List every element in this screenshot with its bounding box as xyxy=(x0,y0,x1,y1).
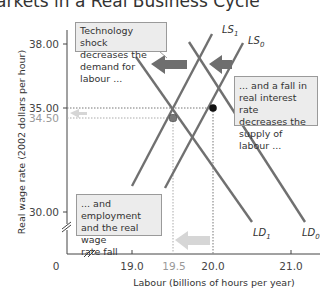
x-axis-label: Labour (billions of hours per year) xyxy=(133,277,295,288)
wage-shift-arrow-icon xyxy=(70,109,87,118)
x-tick-19: 19.0 xyxy=(120,260,143,272)
initial-equilibrium-point xyxy=(209,104,217,112)
note-line: rate fall xyxy=(81,246,157,258)
ld1-label: LD1 xyxy=(253,227,271,241)
note-line: and the real wage xyxy=(81,222,157,246)
tech-shock-note: Technology shock decreases the demand fo… xyxy=(75,22,167,52)
note-line: ... and employment xyxy=(81,198,157,222)
x-tick-19-5: 19.5 xyxy=(162,260,185,272)
y-tick-34-5: 34.50 xyxy=(29,112,59,124)
x-tick-21: 21.0 xyxy=(279,260,302,272)
employment-shift-arrow-icon xyxy=(175,231,210,250)
y-tick-38: 38.00 xyxy=(29,38,59,50)
note-line: supply of labour ... xyxy=(239,128,313,152)
note-line: Technology shock xyxy=(80,25,162,49)
x-tick-20: 20.0 xyxy=(201,260,224,272)
ld0-label: LD0 xyxy=(302,227,320,241)
ls1-label: LS1 xyxy=(222,24,238,38)
note-line: ... and a fall in xyxy=(239,80,313,92)
y-tick-30: 30.00 xyxy=(29,206,59,218)
note-line: real interest rate xyxy=(239,92,313,116)
x-tick-0: 0 xyxy=(53,260,60,272)
y-axis-label: Real wage rate (2002 dollars per hour) xyxy=(16,50,27,234)
note-line: demand for labour ... xyxy=(80,61,162,85)
employment-note: ... and employment and the real wage rat… xyxy=(76,194,162,236)
note-line: decreases the xyxy=(80,49,162,61)
ls0-label: LS0 xyxy=(248,35,265,49)
note-line: decreases the xyxy=(239,116,313,128)
new-equilibrium-point xyxy=(170,115,177,122)
interest-rate-note: ... and a fall in real interest rate dec… xyxy=(234,76,318,126)
